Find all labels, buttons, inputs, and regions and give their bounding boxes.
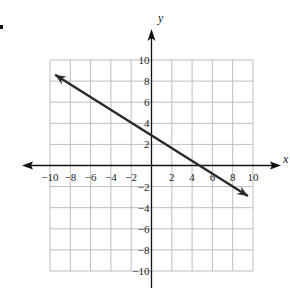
x-tick-label: 2 [169,171,175,183]
y-tick-label: 4 [144,117,150,129]
y-tick-label: −4 [138,202,150,214]
x-tick-label: −8 [64,171,76,183]
y-tick-label: −10 [132,265,150,277]
coordinate-plane: −10−8−6−4−2246810108642−2−4−6−8−10 x y [0,0,290,288]
x-tick-label: 4 [189,171,195,183]
line-arrowhead-right-icon [236,186,248,196]
y-tick-label: 2 [144,138,150,150]
y-tick-label: −6 [138,223,150,235]
y-axis-label: y [157,11,164,25]
x-tick-label: 10 [248,171,260,183]
y-tick-label: −8 [138,244,150,256]
y-tick-label: 10 [139,54,151,66]
y-tick-label: −2 [138,181,150,193]
line-arrowhead-left-icon [55,75,67,85]
x-tick-label: 8 [230,171,236,183]
x-tick-label: −10 [41,171,59,183]
y-tick-label: 6 [144,96,150,108]
x-tick-label: −6 [85,171,97,183]
x-axis-label: x [282,152,289,166]
x-tick-label: −2 [125,171,137,183]
axes [22,29,281,288]
x-tick-label: −4 [105,171,117,183]
y-tick-label: 8 [144,75,150,87]
